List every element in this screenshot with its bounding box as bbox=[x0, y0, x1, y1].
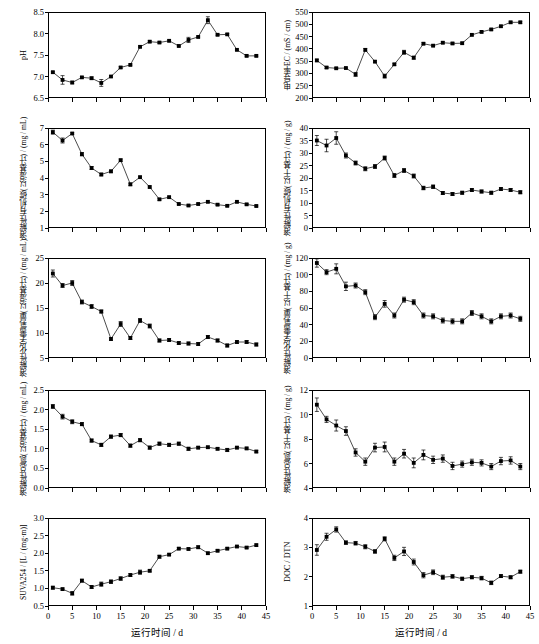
data-point bbox=[196, 342, 200, 346]
y-axis-label-a: pH bbox=[4, 0, 44, 115]
data-point bbox=[196, 446, 200, 450]
data-point bbox=[344, 154, 348, 158]
data-point bbox=[206, 18, 210, 22]
error-bar bbox=[470, 576, 474, 579]
data-point bbox=[354, 161, 358, 165]
data-point bbox=[325, 535, 329, 539]
y-tick-label: 7.0 bbox=[18, 72, 44, 82]
error-bar bbox=[392, 458, 396, 465]
error-bar bbox=[383, 537, 387, 541]
data-point bbox=[344, 541, 348, 545]
y-tick-label: 3 bbox=[282, 542, 308, 552]
y-tick-mark bbox=[309, 414, 313, 415]
error-bar bbox=[363, 167, 367, 171]
error-bar bbox=[225, 548, 229, 550]
error-bar bbox=[109, 338, 113, 341]
error-bar bbox=[109, 580, 113, 584]
error-bar bbox=[128, 183, 132, 186]
data-point bbox=[412, 300, 416, 304]
error-bar bbox=[157, 442, 161, 445]
chart-panel-a: pH6.57.07.58.08.5 bbox=[0, 0, 539, 644]
error-bar bbox=[354, 283, 358, 288]
error-bar bbox=[460, 42, 464, 44]
error-bar bbox=[489, 28, 493, 30]
data-point bbox=[80, 75, 84, 79]
y-tick-mark bbox=[309, 439, 313, 440]
error-bar bbox=[363, 49, 367, 51]
error-bar bbox=[441, 318, 445, 323]
data-point bbox=[373, 446, 377, 450]
error-bar bbox=[509, 457, 513, 464]
x-tick-mark bbox=[481, 228, 482, 232]
data-point bbox=[334, 528, 338, 532]
x-tick-mark bbox=[48, 228, 49, 232]
error-bar bbox=[186, 548, 190, 550]
y-tick-mark bbox=[309, 215, 313, 216]
y-tick-mark bbox=[45, 258, 49, 259]
series-line bbox=[53, 132, 256, 206]
x-axis-label-j: 运行时间 / d bbox=[312, 625, 530, 639]
data-point bbox=[128, 444, 132, 448]
error-bar bbox=[235, 341, 239, 344]
data-point bbox=[70, 591, 74, 595]
data-point bbox=[245, 340, 249, 344]
x-tick-label: 25 bbox=[429, 611, 438, 621]
y-tick-label: 0.0 bbox=[18, 483, 44, 493]
error-bar bbox=[167, 554, 171, 556]
error-bar bbox=[216, 448, 220, 450]
x-tick-mark bbox=[169, 488, 170, 492]
data-point bbox=[412, 56, 416, 60]
y-tick-mark bbox=[45, 448, 49, 449]
data-point bbox=[460, 41, 464, 45]
y-tick-mark bbox=[45, 553, 49, 554]
y-axis-label-j: DOC / DTN bbox=[268, 501, 308, 623]
data-point bbox=[225, 32, 229, 36]
error-bar bbox=[128, 444, 132, 447]
x-tick-mark bbox=[241, 488, 242, 492]
data-point bbox=[216, 447, 220, 451]
data-point bbox=[70, 132, 74, 136]
error-bar bbox=[480, 576, 484, 580]
data-point bbox=[70, 281, 74, 285]
x-tick-mark bbox=[217, 488, 218, 492]
data-point bbox=[148, 569, 152, 573]
error-bar bbox=[412, 300, 416, 305]
data-point bbox=[480, 190, 484, 194]
data-point bbox=[119, 158, 123, 162]
y-tick-label: 4 bbox=[282, 513, 308, 523]
error-bar bbox=[450, 193, 454, 196]
error-bar bbox=[254, 544, 258, 546]
error-bar bbox=[80, 579, 84, 582]
data-point bbox=[216, 33, 220, 37]
data-point bbox=[235, 48, 239, 52]
error-bar bbox=[334, 68, 338, 69]
data-point bbox=[245, 447, 249, 451]
chart-panel-c: 溶解性有机碳(以湿基计) / (mg / mL)1234567 bbox=[0, 0, 539, 644]
y-axis-label-d: 溶解性有机碳(以干基计) / (mg / g) bbox=[268, 111, 308, 245]
data-point bbox=[334, 66, 338, 70]
data-point bbox=[109, 169, 113, 173]
error-bar bbox=[138, 439, 142, 442]
error-bar bbox=[460, 577, 464, 580]
error-bar bbox=[344, 153, 348, 158]
error-bar bbox=[518, 464, 522, 470]
data-point bbox=[90, 76, 94, 80]
error-bar bbox=[450, 42, 454, 44]
data-series-i bbox=[48, 518, 266, 606]
data-point bbox=[363, 460, 367, 464]
data-point bbox=[334, 267, 338, 271]
data-point bbox=[119, 433, 123, 437]
error-bar bbox=[392, 63, 396, 65]
y-tick-mark bbox=[45, 211, 49, 212]
error-bar bbox=[344, 282, 348, 290]
x-tick-mark bbox=[169, 98, 170, 102]
error-bar bbox=[334, 264, 338, 274]
error-bar bbox=[119, 434, 123, 437]
y-tick-label: 4 bbox=[282, 483, 308, 493]
error-bar bbox=[109, 435, 113, 438]
y-tick-mark bbox=[309, 228, 313, 229]
error-bar bbox=[441, 455, 445, 462]
error-bar bbox=[392, 555, 396, 560]
data-point bbox=[499, 574, 503, 578]
x-tick-mark bbox=[266, 488, 267, 492]
